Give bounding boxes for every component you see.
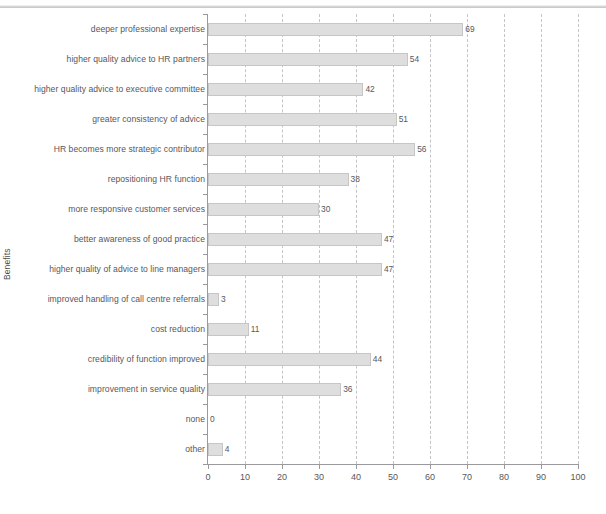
gridline-60 bbox=[430, 14, 431, 464]
y-tick bbox=[203, 104, 208, 105]
category-label: greater consistency of advice bbox=[8, 114, 205, 124]
bar-value-label: 38 bbox=[351, 173, 360, 186]
bar bbox=[208, 233, 382, 246]
category-label: repositioning HR function bbox=[8, 174, 205, 184]
bar-value-label: 36 bbox=[343, 383, 352, 396]
horizontal-bar-chart: Benefits deeper professional expertisehi… bbox=[0, 0, 606, 514]
x-tick-label-40: 40 bbox=[336, 472, 376, 482]
x-tick-50 bbox=[393, 464, 394, 469]
x-tick-label-50: 50 bbox=[373, 472, 413, 482]
bar-value-label: 30 bbox=[321, 203, 330, 216]
category-label: better awareness of good practice bbox=[8, 234, 205, 244]
bar-value-label: 47 bbox=[384, 263, 393, 276]
y-tick bbox=[203, 134, 208, 135]
y-tick bbox=[203, 434, 208, 435]
bar bbox=[208, 323, 249, 336]
bar bbox=[208, 203, 319, 216]
bar-value-label: 51 bbox=[399, 113, 408, 126]
y-tick bbox=[203, 314, 208, 315]
x-tick-label-0: 0 bbox=[188, 472, 228, 482]
x-tick-40 bbox=[356, 464, 357, 469]
x-tick-10 bbox=[245, 464, 246, 469]
gridline-90 bbox=[541, 14, 542, 464]
category-label: improvement in service quality bbox=[8, 384, 205, 394]
x-tick-90 bbox=[541, 464, 542, 469]
bar bbox=[208, 143, 415, 156]
category-label: higher quality of advice to line manager… bbox=[8, 264, 205, 274]
x-tick-label-100: 100 bbox=[558, 472, 598, 482]
y-tick bbox=[203, 164, 208, 165]
bar-value-label: 3 bbox=[221, 293, 226, 306]
bar-value-label: 56 bbox=[417, 143, 426, 156]
category-label: deeper professional expertise bbox=[8, 24, 205, 34]
x-tick-0 bbox=[208, 464, 209, 469]
bar-value-label: 42 bbox=[365, 83, 374, 96]
x-tick-70 bbox=[467, 464, 468, 469]
bar bbox=[208, 353, 371, 366]
bar bbox=[208, 263, 382, 276]
x-tick-label-60: 60 bbox=[410, 472, 450, 482]
category-label: other bbox=[8, 444, 205, 454]
category-label: more responsive customer services bbox=[8, 204, 205, 214]
category-label: HR becomes more strategic contributor bbox=[8, 144, 205, 154]
y-tick bbox=[203, 344, 208, 345]
bar bbox=[208, 23, 463, 36]
bar-value-label: 11 bbox=[251, 323, 260, 336]
bar bbox=[208, 293, 219, 306]
gridline-70 bbox=[467, 14, 468, 464]
bar bbox=[208, 173, 349, 186]
category-label: higher quality advice to HR partners bbox=[8, 54, 205, 64]
category-label: none bbox=[8, 414, 205, 424]
x-tick-label-70: 70 bbox=[447, 472, 487, 482]
gridline-100 bbox=[578, 14, 579, 464]
x-tick-30 bbox=[319, 464, 320, 469]
y-axis-line bbox=[207, 14, 208, 465]
x-tick-80 bbox=[504, 464, 505, 469]
category-label: higher quality advice to executive commi… bbox=[8, 84, 205, 94]
y-tick bbox=[203, 194, 208, 195]
y-tick bbox=[203, 404, 208, 405]
plot-area: 695442515638304747311443604 bbox=[208, 14, 578, 464]
x-tick-60 bbox=[430, 464, 431, 469]
gridline-80 bbox=[504, 14, 505, 464]
x-tick-100 bbox=[578, 464, 579, 469]
bar bbox=[208, 83, 363, 96]
y-tick bbox=[203, 254, 208, 255]
bar-value-label: 54 bbox=[410, 53, 419, 66]
bar-value-label: 4 bbox=[225, 443, 230, 456]
x-tick-label-30: 30 bbox=[299, 472, 339, 482]
bar bbox=[208, 113, 397, 126]
x-tick-label-20: 20 bbox=[262, 472, 302, 482]
category-label: credibility of function improved bbox=[8, 354, 205, 364]
category-label: improved handling of call centre referra… bbox=[8, 294, 205, 304]
y-tick bbox=[203, 284, 208, 285]
y-tick bbox=[203, 44, 208, 45]
bar-value-label: 47 bbox=[384, 233, 393, 246]
y-tick bbox=[203, 374, 208, 375]
x-tick-label-80: 80 bbox=[484, 472, 524, 482]
bar bbox=[208, 383, 341, 396]
bar-value-label: 69 bbox=[465, 23, 474, 36]
x-tick-label-90: 90 bbox=[521, 472, 561, 482]
bar bbox=[208, 443, 223, 456]
bar-value-label: 44 bbox=[373, 353, 382, 366]
y-tick bbox=[203, 224, 208, 225]
category-axis-labels: deeper professional expertisehigher qual… bbox=[8, 14, 205, 464]
category-label: cost reduction bbox=[8, 324, 205, 334]
x-tick-label-10: 10 bbox=[225, 472, 265, 482]
y-tick bbox=[203, 74, 208, 75]
y-tick bbox=[203, 14, 208, 15]
x-tick-20 bbox=[282, 464, 283, 469]
y-tick bbox=[203, 464, 208, 465]
bar-value-label: 0 bbox=[210, 413, 215, 426]
bar bbox=[208, 53, 408, 66]
